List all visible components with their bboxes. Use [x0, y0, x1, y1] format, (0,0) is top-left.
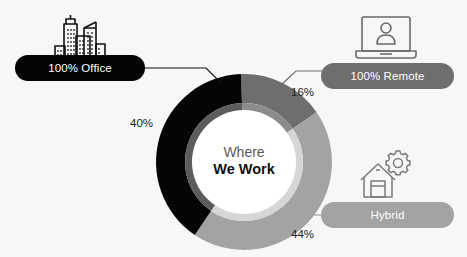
office-label: 100% Office — [48, 62, 112, 74]
center-title-line1: Where — [194, 144, 294, 161]
where-we-work-infographic: 100% Office 100% Remote Hybrid 40% 16% 4… — [0, 0, 467, 257]
remote-label-pill: 100% Remote — [321, 63, 454, 89]
hybrid-label: Hybrid — [371, 209, 405, 221]
remote-percent: 16% — [291, 86, 314, 98]
house-gear-icon — [361, 151, 410, 197]
laptop-user-icon — [356, 17, 416, 58]
center-title-line2: We Work — [194, 161, 294, 178]
office-percent: 40% — [130, 117, 153, 129]
office-label-pill: 100% Office — [15, 55, 145, 81]
remote-label: 100% Remote — [351, 70, 425, 82]
hybrid-percent: 44% — [291, 228, 314, 240]
hybrid-label-pill: Hybrid — [321, 202, 454, 228]
donut-center-title: Where We Work — [194, 144, 294, 178]
